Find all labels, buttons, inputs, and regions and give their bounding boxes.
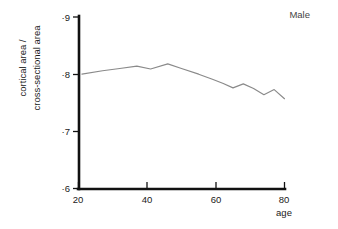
data-series-male [82, 64, 285, 99]
x-tick-label-80: 80 [279, 194, 290, 205]
chart-figure: ·9 ·8 ·7 ·6 20 40 60 80 age cortical are… [0, 0, 338, 229]
y-axis-group: ·9 ·8 ·7 ·6 [62, 12, 80, 195]
x-axis-title: age [276, 207, 292, 218]
y-axis-title-line1: cortical area / [17, 39, 28, 96]
x-tick-label-40: 40 [142, 194, 153, 205]
chart-plot-area: ·9 ·8 ·7 ·6 20 40 60 80 age cortical are… [0, 0, 338, 229]
x-tick-label-20: 20 [73, 194, 84, 205]
y-tick-label-0.9: ·9 [62, 12, 70, 23]
y-tick-label-0.8: ·8 [62, 69, 70, 80]
x-axis-group: 20 40 60 80 age [73, 182, 292, 218]
y-tick-label-0.7: ·7 [62, 126, 70, 137]
series-label-male: Male [289, 9, 310, 20]
y-axis-title-line2: cross-sectional area [31, 25, 42, 111]
y-tick-label-0.6: ·6 [62, 183, 70, 194]
x-tick-label-60: 60 [211, 194, 222, 205]
y-axis-title-group: cortical area / cross-sectional area [17, 25, 42, 111]
